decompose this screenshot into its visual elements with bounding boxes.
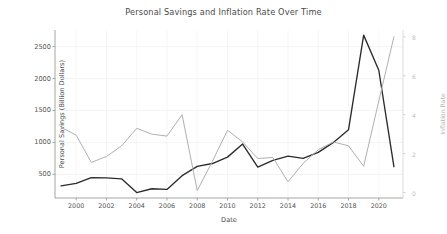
plot-area: Personal Savings (Billion Dollars) Infla… — [55, 30, 403, 198]
y-tick-left: 1500 — [34, 106, 51, 114]
x-tick: 2010 — [219, 202, 235, 210]
y-tick-left: 1000 — [34, 138, 51, 146]
x-tick: 2016 — [310, 202, 326, 210]
x-tick: 2002 — [98, 202, 114, 210]
x-tick: 2018 — [340, 202, 356, 210]
y-tick-right: 2 — [412, 150, 416, 157]
chart-figure: Personal Savings and Inflation Rate Over… — [0, 0, 447, 234]
x-tick: 2006 — [159, 202, 175, 210]
chart-title: Personal Savings and Inflation Rate Over… — [0, 7, 447, 17]
y-axis-label-right: Inflation Rate — [439, 93, 446, 134]
y-tick-right: 4 — [412, 111, 416, 118]
x-tick: 2004 — [129, 202, 145, 210]
y-tick-right: 0 — [412, 189, 416, 196]
y-tick-right: 8 — [412, 33, 416, 40]
y-tick-left: 500 — [38, 170, 51, 178]
x-tick: 2012 — [250, 202, 266, 210]
y-tick-left: 2500 — [34, 43, 51, 51]
y-tick-left: 2000 — [34, 75, 51, 83]
x-axis-label: Date — [55, 216, 403, 224]
y-tick-right: 6 — [412, 72, 416, 79]
x-tick: 2008 — [189, 202, 205, 210]
x-tick: 2000 — [68, 202, 84, 210]
chart-canvas — [55, 30, 403, 198]
x-tick: 2014 — [280, 202, 296, 210]
x-tick: 2020 — [371, 202, 387, 210]
